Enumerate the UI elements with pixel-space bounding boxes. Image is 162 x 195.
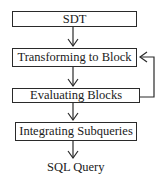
node-label: SDT: [63, 12, 87, 27]
node-evaluating-blocks: Evaluating Blocks: [12, 88, 140, 103]
node-sql-query: SQL Query: [47, 160, 105, 175]
node-label: Integrating Subqueries: [19, 124, 133, 139]
node-sdt: SDT: [12, 11, 137, 27]
node-integrating-subqueries: Integrating Subqueries: [15, 122, 137, 141]
edge-feedback-loop: [140, 57, 154, 97]
node-label: Transforming to Block: [17, 50, 131, 65]
node-label: Evaluating Blocks: [30, 88, 122, 103]
node-transforming-to-block: Transforming to Block: [12, 48, 137, 67]
